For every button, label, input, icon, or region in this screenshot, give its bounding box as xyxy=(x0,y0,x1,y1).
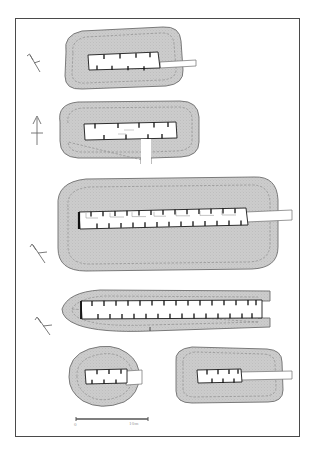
enclosure-plan-3 xyxy=(58,177,292,271)
site-plan-drawing xyxy=(0,0,316,451)
north-arrow-4 xyxy=(35,317,52,335)
enclosure-plan-2 xyxy=(60,101,199,165)
enclosure-plan-5 xyxy=(69,346,142,406)
enclosure-plan-6 xyxy=(176,347,292,403)
plan-6-building xyxy=(197,369,242,383)
north-arrow-1 xyxy=(27,54,40,72)
enclosure-plan-4 xyxy=(62,290,270,331)
enclosure-plan-1 xyxy=(65,27,196,89)
plan-3-entrance-passage xyxy=(246,210,292,222)
north-arrow-3 xyxy=(30,244,47,263)
plan-2-entrance-gap xyxy=(141,139,151,165)
plan-6-entrance-passage xyxy=(240,371,292,380)
plan-5-entrance-passage xyxy=(126,370,142,385)
figure-page: 0 10m xyxy=(0,0,316,451)
plan-1-building xyxy=(88,52,160,70)
scale-bar-start-label: 0 xyxy=(74,422,77,427)
plan-4-building xyxy=(81,300,262,319)
north-arrow-2 xyxy=(31,116,43,145)
plan-2-building xyxy=(84,122,177,140)
scale-bar-end-label: 10m xyxy=(129,421,139,426)
